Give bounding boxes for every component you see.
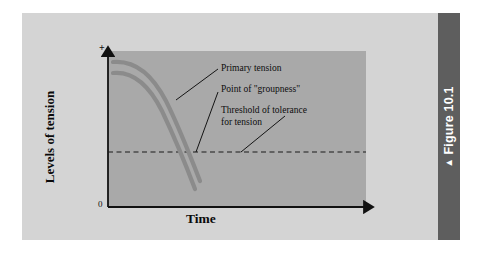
y-axis-tick-positive: + <box>99 42 105 53</box>
figure-number-label: ▲Figure 10.1 <box>442 86 456 167</box>
figure-number-text: Figure 10.1 <box>442 86 456 154</box>
figure-screenshot: ▲Figure 10.1 + 0 Levels of tension Ti <box>0 0 486 258</box>
figure-number-bar: ▲Figure 10.1 <box>438 13 460 240</box>
annotation-point-of-groupness: Point of "groupness" <box>221 84 300 96</box>
y-axis-tick-zero: 0 <box>98 199 103 209</box>
x-axis-title: Time <box>186 211 216 227</box>
y-axis-title: Levels of tension <box>42 57 58 217</box>
triangle-up-icon: ▲ <box>443 157 454 167</box>
annotation-threshold-of-tolerance: Threshold of tolerance for tension <box>221 105 307 128</box>
annotation-primary-tension: Primary tension <box>221 63 281 75</box>
